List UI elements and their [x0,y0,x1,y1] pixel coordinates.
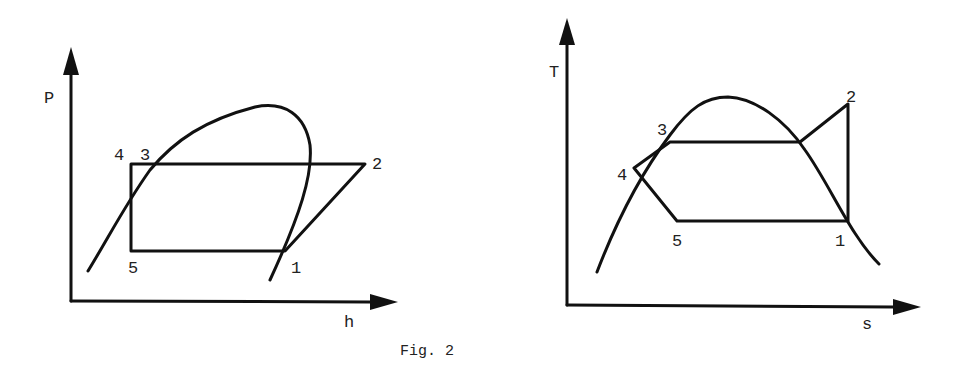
ph-x-arrow-icon [370,294,398,310]
ts-point-3: 3 [657,121,667,140]
ph-y-arrow-icon [63,47,79,75]
ph-point-2: 2 [372,155,382,174]
ts-point-5: 5 [672,232,682,251]
ts-point-2: 2 [846,88,856,107]
ts-x-axis [567,305,893,307]
ph-saturation-dome [88,106,310,280]
ts-point-1: 1 [835,232,845,251]
ph-y-label: P [44,89,54,108]
ph-x-axis [71,301,370,302]
ts-y-label: T [549,63,559,82]
ph-point-3: 3 [140,146,150,165]
ph-point-5: 5 [128,259,138,278]
ph-diagram: P h 1 2 3 4 5 [44,47,398,332]
ph-point-1: 1 [291,259,301,278]
figure-canvas: P h 1 2 3 4 5 T s 1 2 3 4 5 [0,0,958,370]
ts-y-arrow-icon [559,18,575,45]
ts-diagram: T s 1 2 3 4 5 [549,18,921,334]
ph-x-label: h [344,313,354,332]
figure-caption: Fig. 2 [400,343,454,360]
ts-point-4: 4 [617,166,627,185]
ph-point-4: 4 [114,146,124,165]
ph-cycle [131,164,365,251]
ts-x-label: s [862,315,872,334]
ts-x-arrow-icon [893,299,921,315]
